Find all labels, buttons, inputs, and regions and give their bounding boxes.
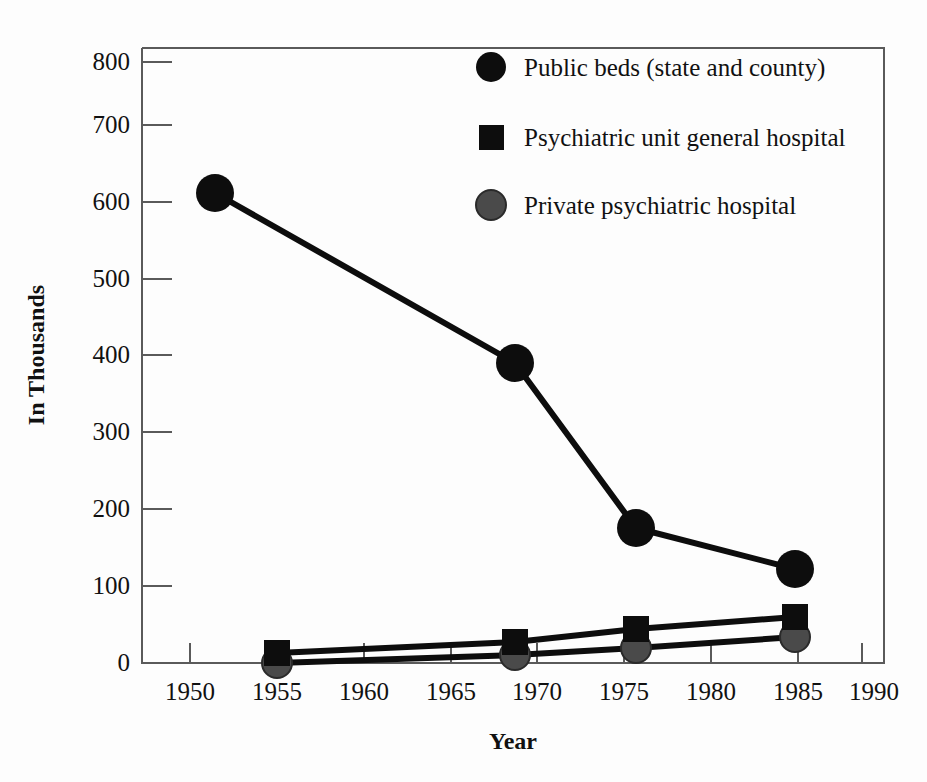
legend-item-public-beds[interactable]: Public beds (state and county) <box>476 52 825 82</box>
legend-label-psychiatric-unit: Psychiatric unit general hospital <box>524 124 846 151</box>
y-tick-label-700: 700 <box>93 111 131 138</box>
series-public-beds <box>196 174 814 588</box>
x-tick-label-1970: 1970 <box>512 678 562 705</box>
y-tick-label-800: 800 <box>93 48 131 75</box>
data-point-marker <box>196 174 234 212</box>
legend-item-psychiatric-unit[interactable]: Psychiatric unit general hospital <box>479 124 846 151</box>
y-axis-tick-labels: 0 100 200 300 400 500 600 700 800 <box>93 48 131 676</box>
legend-circle-icon <box>476 190 506 220</box>
x-tick-label-1975: 1975 <box>599 678 649 705</box>
legend-square-icon <box>479 125 504 150</box>
x-axis-title: Year <box>489 728 537 754</box>
data-point-marker <box>782 604 808 630</box>
data-point-marker <box>776 550 814 588</box>
legend-label-private-hospital: Private psychiatric hospital <box>524 192 796 219</box>
chart-legend: Public beds (state and county) Psychiatr… <box>476 52 846 220</box>
legend-circle-icon <box>476 52 506 82</box>
x-tick-label-1990: 1990 <box>849 678 899 705</box>
y-tick-label-500: 500 <box>93 265 131 292</box>
x-axis-tick-labels: 1950 1955 1960 1965 1970 1975 1980 1985 … <box>165 678 899 705</box>
y-axis-title: In Thousands <box>23 285 49 425</box>
data-point-marker <box>496 344 534 382</box>
y-tick-label-400: 400 <box>93 341 131 368</box>
chart-figure: 0 100 200 300 400 500 600 700 800 1950 1… <box>0 0 927 782</box>
y-tick-label-200: 200 <box>93 495 131 522</box>
data-point-marker <box>502 629 528 655</box>
y-tick-label-0: 0 <box>118 649 131 676</box>
y-tick-label-600: 600 <box>93 188 131 215</box>
y-tick-label-100: 100 <box>93 572 131 599</box>
data-point-marker <box>264 640 290 666</box>
x-tick-label-1960: 1960 <box>339 678 389 705</box>
x-tick-label-1965: 1965 <box>426 678 476 705</box>
y-axis-ticks <box>142 62 172 663</box>
x-tick-label-1955: 1955 <box>252 678 302 705</box>
x-tick-label-1985: 1985 <box>773 678 823 705</box>
y-tick-label-300: 300 <box>93 418 131 445</box>
x-tick-label-1950: 1950 <box>165 678 215 705</box>
x-tick-label-1980: 1980 <box>686 678 736 705</box>
legend-item-private-hospital[interactable]: Private psychiatric hospital <box>476 190 796 220</box>
legend-label-public-beds: Public beds (state and county) <box>524 54 825 82</box>
data-point-marker <box>623 616 649 642</box>
line-chart: 0 100 200 300 400 500 600 700 800 1950 1… <box>0 0 927 782</box>
data-point-marker <box>617 509 655 547</box>
